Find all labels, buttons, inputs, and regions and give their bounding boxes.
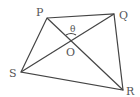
- label-P: P: [36, 6, 44, 19]
- label-S: S: [9, 67, 17, 80]
- quadrilateral-diagram: P Q R S O θ: [0, 0, 140, 97]
- label-theta: θ: [70, 24, 75, 34]
- label-R: R: [126, 85, 135, 97]
- label-O: O: [66, 46, 75, 59]
- label-Q: Q: [119, 9, 128, 22]
